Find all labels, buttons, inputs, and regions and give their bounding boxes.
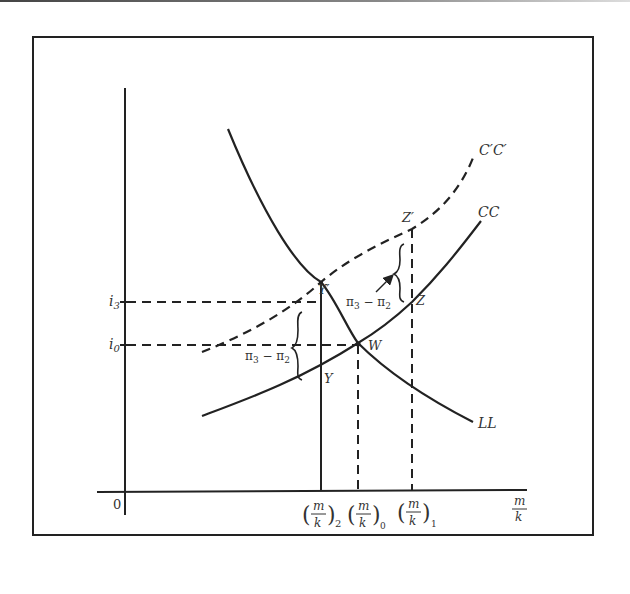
zp-label: Z′ <box>401 210 414 225</box>
yp-label: Y′ <box>318 282 330 297</box>
y-label: Y <box>324 371 334 386</box>
mk0-tick-label: ( m k ) 0 <box>347 499 386 531</box>
cc-label: CC <box>478 204 500 220</box>
mk1-tick-label: ( m k ) 1 <box>397 497 437 529</box>
gap-label-right: π3 − π2 <box>346 295 391 311</box>
svg-text:k: k <box>515 510 522 524</box>
svg-text:(: ( <box>397 500 406 525</box>
x-axis <box>97 490 527 492</box>
svg-text:2: 2 <box>335 518 341 529</box>
svg-text:m: m <box>313 499 324 513</box>
diagram-canvas: C′C′ CC LL W Y Y′ Z Z′ i3 i0 0 π3 − π2 π… <box>0 0 630 594</box>
i3-label: i3 <box>109 293 120 311</box>
svg-text:): ) <box>422 500 431 525</box>
w-point-marker <box>356 342 361 347</box>
ccp-label: C′C′ <box>479 142 508 158</box>
svg-text:k: k <box>409 514 416 528</box>
gap-arrow <box>376 276 392 292</box>
x-axis-label: m k <box>512 494 527 524</box>
i0-label: i0 <box>109 336 120 354</box>
w-label: W <box>368 338 383 353</box>
svg-text:m: m <box>408 497 419 511</box>
ll-label: LL <box>477 415 497 431</box>
origin-label: 0 <box>113 497 121 512</box>
svg-text:0: 0 <box>380 521 386 531</box>
svg-text:m: m <box>358 499 369 513</box>
svg-text:1: 1 <box>431 519 437 529</box>
svg-text:(: ( <box>302 502 311 527</box>
gap-label-left: π3 − π2 <box>245 349 290 365</box>
svg-text:(: ( <box>347 502 356 527</box>
z-label: Z <box>415 293 426 308</box>
mk2-tick-label: ( m k ) 2 <box>302 499 341 530</box>
svg-text:k: k <box>359 516 366 530</box>
gap-brace-right <box>394 244 404 302</box>
cc-curve <box>202 221 481 416</box>
ccp-curve <box>202 158 473 352</box>
svg-text:k: k <box>314 516 321 530</box>
svg-text:m: m <box>514 494 525 508</box>
